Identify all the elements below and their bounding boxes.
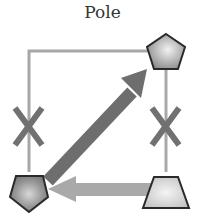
frame-lines [29,51,166,172]
pole-diagram [0,0,205,222]
bottom-left-pentagon-node [10,176,48,212]
bottom-right-trapezoid-node [143,177,189,208]
left-top-line [29,51,150,172]
top-right-pentagon-node [147,34,185,69]
horizontal-arrow-icon [48,176,152,202]
diagonal-arrow-icon [48,69,147,181]
